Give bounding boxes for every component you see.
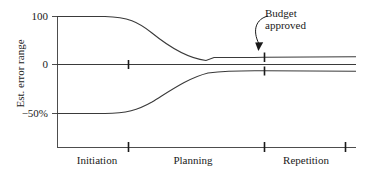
annotation-line-2: approved [265,19,306,31]
chart-plot-area [0,0,365,179]
chart-figure: Est. error range 100 0 −50% Initiation P… [0,0,365,179]
y-tick-label-minus-50-percent: −50% [2,108,48,119]
y-tick-label-0: 0 [8,59,48,70]
upper-error-bound-curve [57,17,356,61]
annotation-budget-approved: Budget approved [265,7,306,31]
annotation-line-1: Budget [265,7,306,19]
x-axis-label-planning: Planning [148,155,238,166]
y-tick-label-100: 100 [8,11,48,22]
x-axis-label-initiation: Initiation [62,155,132,166]
lower-error-bound-curve [57,71,356,114]
x-axis-label-repetition: Repetition [264,155,348,166]
annotation-arrowhead-icon [255,42,263,51]
